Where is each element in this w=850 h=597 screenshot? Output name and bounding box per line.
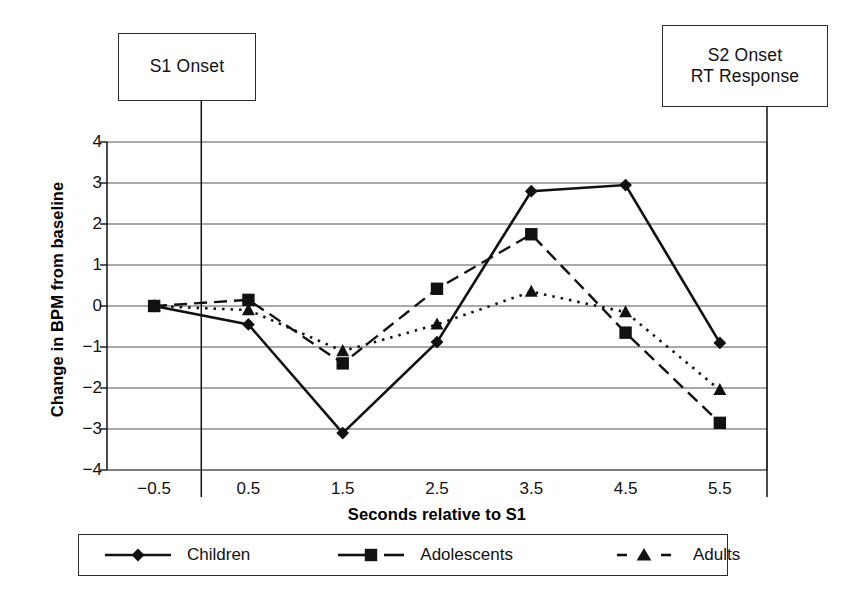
series-children	[148, 179, 727, 440]
annotation-box-s1-onset: S1 Onset	[118, 33, 256, 101]
data-point-marker	[525, 285, 538, 297]
data-point-marker	[336, 344, 349, 356]
diamond-marker-icon	[103, 546, 173, 564]
data-point-marker	[525, 228, 537, 240]
data-point-marker	[431, 283, 443, 295]
data-point-marker	[714, 417, 726, 429]
legend-item-children[interactable]: Children	[103, 545, 250, 565]
chart-legend: ChildrenAdolescentsAdults	[78, 534, 728, 576]
legend-item-label: Children	[187, 545, 250, 565]
square-marker-icon	[336, 546, 406, 564]
data-series	[148, 179, 727, 440]
data-point-marker	[525, 185, 538, 198]
data-point-marker	[337, 357, 349, 369]
legend-item-adolescents[interactable]: Adolescents	[336, 545, 513, 565]
legend-item-label: Adults	[693, 545, 740, 565]
data-point-marker	[619, 326, 631, 338]
triangle-marker-icon	[609, 546, 679, 564]
annotation-leader-lines	[201, 101, 767, 497]
chart-figure: S1 Onset S2 Onset RT Response Change in …	[0, 0, 850, 597]
annotation-s2-line1: S2 Onset	[708, 45, 783, 66]
data-point-marker	[619, 179, 632, 192]
legend-item-label: Adolescents	[420, 545, 513, 565]
annotation-box-s2-onset: S2 Onset RT Response	[662, 25, 828, 107]
axis-ticks	[100, 142, 107, 470]
data-point-marker	[713, 383, 726, 395]
legend-item-adults[interactable]: Adults	[609, 545, 740, 565]
gridlines	[107, 142, 767, 470]
annotation-s1-text: S1 Onset	[150, 56, 225, 77]
annotation-s2-line2: RT Response	[691, 66, 800, 87]
